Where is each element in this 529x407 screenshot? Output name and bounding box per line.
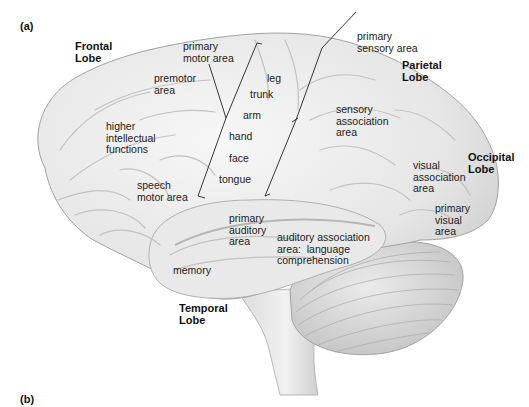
primary-auditory-area-label: primary auditory area (229, 213, 266, 248)
higher-intellectual-functions-label: higher intellectual functions (106, 121, 156, 156)
motor-strip-trunk-label: trunk (250, 89, 273, 101)
panel-label-b: (b) (20, 393, 34, 405)
motor-strip-face-label: face (229, 153, 249, 165)
premotor-area-label: premotor area (154, 73, 196, 96)
motor-strip-hand-label: hand (229, 131, 252, 143)
primary-motor-area-label: primary motor area (183, 41, 234, 64)
frontal-lobe-label: Frontal Lobe (75, 40, 112, 64)
temporal-lobe-label: Temporal Lobe (179, 302, 228, 326)
occipital-lobe-label: Occipital Lobe (468, 151, 514, 175)
primary-sensory-area-label: primary sensory area (357, 31, 418, 54)
auditory-association-area-label: auditory association area: language comp… (277, 232, 370, 267)
panel-label-a: (a) (20, 20, 33, 32)
sensory-association-area-label: sensory association area (336, 104, 389, 139)
speech-motor-area-label: speech motor area (137, 180, 188, 203)
motor-strip-leg-label: leg (267, 73, 281, 85)
visual-association-area-label: visual association area (413, 160, 466, 195)
motor-strip-tongue-label: tongue (219, 174, 251, 186)
motor-strip-arm-label: arm (243, 110, 261, 122)
parietal-lobe-label: Parietal Lobe (402, 59, 442, 83)
memory-label: memory (173, 265, 211, 277)
primary-visual-area-label: primary visual area (435, 203, 470, 238)
